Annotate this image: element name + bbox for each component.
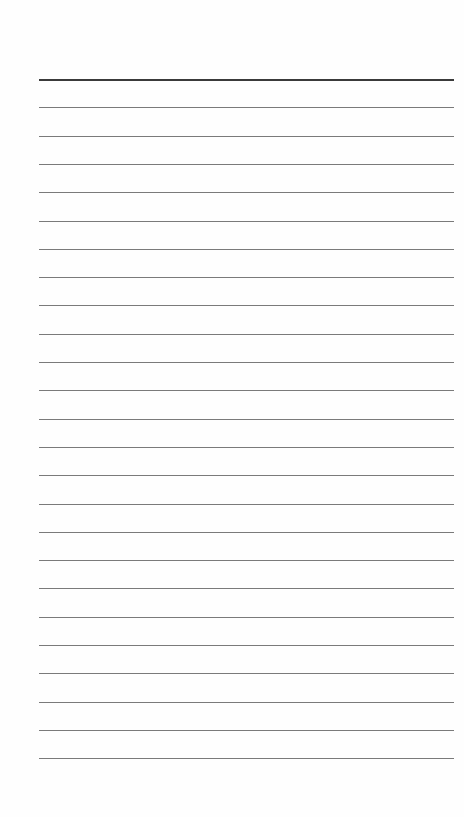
header-rule-line xyxy=(39,79,454,81)
rule-line xyxy=(39,192,454,193)
rule-line xyxy=(39,249,454,250)
rule-line xyxy=(39,758,454,759)
rule-line xyxy=(39,673,454,674)
rule-line xyxy=(39,305,454,306)
rule-line xyxy=(39,504,454,505)
rule-line xyxy=(39,617,454,618)
rule-line xyxy=(39,645,454,646)
rule-line xyxy=(39,475,454,476)
rule-line xyxy=(39,447,454,448)
rule-line xyxy=(39,221,454,222)
lined-paper-page xyxy=(0,0,464,817)
rule-line xyxy=(39,560,454,561)
rule-line xyxy=(39,588,454,589)
rule-line xyxy=(39,277,454,278)
rule-line xyxy=(39,334,454,335)
rule-line xyxy=(39,390,454,391)
rule-line xyxy=(39,362,454,363)
rule-line xyxy=(39,702,454,703)
rule-line xyxy=(39,730,454,731)
rule-line xyxy=(39,136,454,137)
rule-line xyxy=(39,107,454,108)
rule-line xyxy=(39,532,454,533)
rule-line xyxy=(39,164,454,165)
rule-line xyxy=(39,419,454,420)
